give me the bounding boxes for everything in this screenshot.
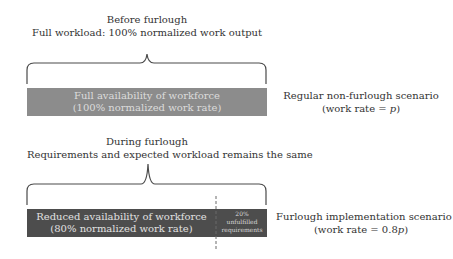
scenario-line-2: (work rate = 0.8p): [276, 223, 446, 236]
work-rate-prefix: (work rate = 0.8: [314, 224, 398, 235]
scenario-line-1: Furlough implementation scenario: [276, 210, 446, 223]
work-rate-suffix: ): [404, 224, 408, 235]
furlough-scenario-label: Furlough implementation scenario (work r…: [276, 210, 446, 236]
